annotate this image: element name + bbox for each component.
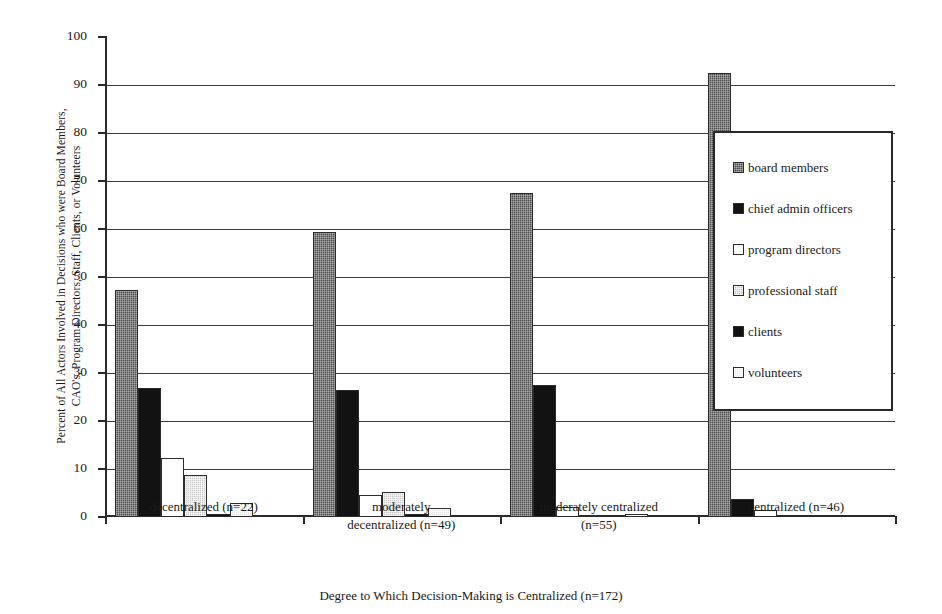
y-tick-label: 80 [74, 124, 88, 140]
legend-swatch-icon [733, 326, 744, 337]
legend-swatch-icon [733, 203, 744, 214]
y-tick-label: 20 [74, 412, 88, 428]
legend-item[interactable]: volunteers [733, 352, 891, 393]
x-axis-category-label: centralized (n=46) [698, 498, 896, 516]
legend-item[interactable]: clients [733, 311, 891, 352]
legend-swatch-icon [733, 244, 744, 255]
bar-group [500, 37, 698, 517]
y-tick-label: 50 [74, 268, 88, 284]
legend: board memberschief admin officersprogram… [713, 131, 893, 411]
legend-item[interactable]: program directors [733, 229, 891, 270]
bar-board-members [115, 290, 138, 517]
y-tick-label: 40 [74, 316, 88, 332]
legend-swatch-icon [733, 367, 744, 378]
legend-label: volunteers [748, 365, 802, 381]
bar-board-members [313, 232, 336, 517]
legend-item[interactable]: chief admin officers [733, 188, 891, 229]
legend-item[interactable]: board members [733, 147, 891, 188]
y-tick-label: 100 [67, 28, 87, 44]
y-tick-label: 90 [74, 76, 88, 92]
x-tick [698, 516, 700, 524]
bar-board-members [510, 193, 533, 517]
bar-chart: Percent of All Actors Involved in Decisi… [0, 0, 942, 614]
x-tick [105, 516, 107, 524]
x-axis-category-label: decentralized (n=22) [105, 498, 303, 516]
y-tick-label: 30 [74, 364, 88, 380]
x-axis-title: Degree to Which Decision-Making is Centr… [0, 588, 942, 604]
legend-label: chief admin officers [748, 201, 852, 217]
y-tick-label: 10 [74, 460, 88, 476]
legend-label: professional staff [748, 283, 838, 299]
legend-swatch-icon [733, 285, 744, 296]
y-tick-label: 60 [74, 220, 88, 236]
legend-label: clients [748, 324, 782, 340]
bar-group [303, 37, 501, 517]
y-tick-label: 70 [74, 172, 88, 188]
legend-label: board members [748, 160, 829, 176]
y-tick-label: 0 [80, 508, 87, 524]
legend-label: program directors [748, 242, 841, 258]
x-axis-category-label: moderately centralized (n=55) [500, 498, 698, 534]
x-axis-category-label: moderately decentralized (n=49) [303, 498, 501, 534]
bar-group [105, 37, 303, 517]
legend-swatch-icon [733, 162, 744, 173]
legend-item[interactable]: professional staff [733, 270, 891, 311]
x-tick [895, 516, 897, 524]
